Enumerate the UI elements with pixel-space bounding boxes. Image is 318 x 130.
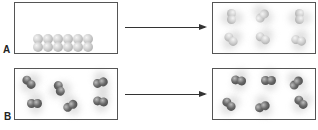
molecule xyxy=(27,96,43,112)
right-arrow-icon xyxy=(125,94,205,95)
molecule xyxy=(60,95,82,117)
row-a-before-box xyxy=(14,2,118,54)
molecule xyxy=(289,31,309,51)
molecule xyxy=(252,28,274,50)
molecule xyxy=(253,97,274,118)
atom xyxy=(33,42,43,52)
molecule xyxy=(230,72,249,91)
atom xyxy=(63,42,73,52)
molecule xyxy=(290,92,313,115)
atom xyxy=(53,42,63,52)
row-a-after-box xyxy=(212,2,316,54)
row-label-a: A xyxy=(3,44,10,55)
molecule xyxy=(218,94,241,117)
row-b-before-box xyxy=(14,68,118,120)
molecule xyxy=(261,73,277,89)
row-b-after-box xyxy=(212,68,316,120)
molecule xyxy=(286,72,309,95)
atom xyxy=(43,42,53,52)
atom xyxy=(83,42,93,52)
molecule xyxy=(252,5,275,28)
molecule xyxy=(92,93,111,112)
molecule xyxy=(291,9,307,25)
molecule xyxy=(220,29,243,52)
atom xyxy=(73,42,83,52)
molecule xyxy=(18,72,41,95)
right-arrow-icon xyxy=(125,27,205,28)
row-label-b: B xyxy=(4,111,11,122)
molecule xyxy=(223,9,239,25)
